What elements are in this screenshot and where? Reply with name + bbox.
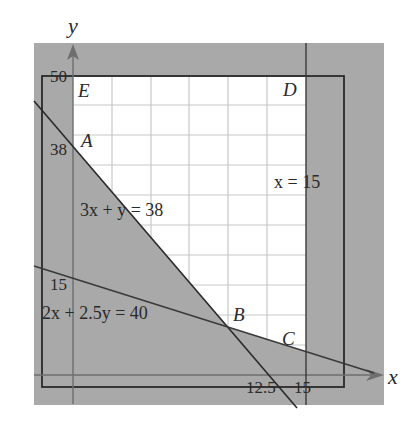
vertex-label-D: D bbox=[282, 79, 297, 100]
y-axis-label: y bbox=[66, 13, 78, 38]
vertex-label-C: C bbox=[282, 328, 295, 349]
tick-y-38: 38 bbox=[50, 140, 67, 159]
vertex-label-A: A bbox=[79, 130, 93, 151]
feasible-region-diagram: y x 50 38 15 12.5 15 3x + y = 38 2x + 2.… bbox=[0, 0, 420, 433]
tick-y-50: 50 bbox=[50, 67, 67, 86]
x-axis-label: x bbox=[387, 364, 398, 389]
tick-y-15: 15 bbox=[50, 275, 67, 294]
vertex-label-B: B bbox=[233, 304, 245, 325]
label-line-2x-plus-2-5y-40: 2x + 2.5y = 40 bbox=[42, 303, 148, 323]
label-line-x-equals-15: x = 15 bbox=[274, 172, 320, 192]
tick-x-12-5: 12.5 bbox=[246, 378, 276, 397]
tick-x-15: 15 bbox=[294, 378, 311, 397]
vertex-label-E: E bbox=[77, 80, 90, 101]
label-line-3x-plus-y-38: 3x + y = 38 bbox=[80, 200, 163, 220]
